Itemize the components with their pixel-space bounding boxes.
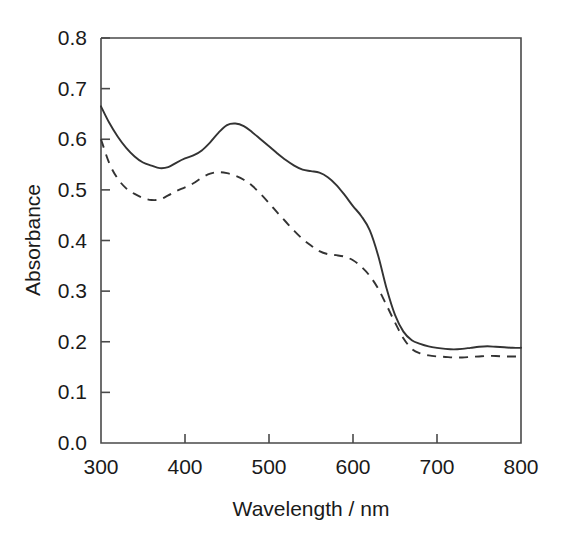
y-tick-labels: 0.00.10.20.30.40.50.60.70.8	[58, 26, 88, 454]
x-tick-label: 800	[503, 455, 538, 478]
y-tick-label: 0.3	[58, 279, 87, 302]
y-tick-label: 0.2	[58, 330, 87, 353]
y-tick-label: 0.6	[58, 127, 87, 150]
data-series	[101, 106, 521, 357]
x-tick-labels: 300400500600700800	[83, 455, 538, 478]
axes	[101, 38, 521, 443]
chart-canvas: 0.00.10.20.30.40.50.60.70.8 300400500600…	[0, 0, 561, 539]
x-tick-label: 300	[83, 455, 118, 478]
x-tick-label: 600	[335, 455, 370, 478]
y-tick-label: 0.0	[58, 431, 87, 454]
x-axis-title: Wavelength / nm	[233, 497, 390, 520]
y-tick-label: 0.8	[58, 26, 87, 49]
y-tick-label: 0.1	[58, 380, 87, 403]
y-tick-label: 0.7	[58, 77, 87, 100]
y-axis-title: Absorbance	[21, 184, 44, 296]
tick-marks	[101, 38, 437, 443]
y-tick-label: 0.4	[58, 229, 88, 252]
x-tick-label: 700	[419, 455, 454, 478]
y-tick-label: 0.5	[58, 178, 87, 201]
series-solid-curve	[101, 106, 521, 349]
plot-frame	[101, 38, 521, 443]
x-tick-label: 500	[251, 455, 286, 478]
x-tick-label: 400	[167, 455, 202, 478]
absorbance-spectrum-figure: 0.00.10.20.30.40.50.60.70.8 300400500600…	[0, 0, 561, 539]
